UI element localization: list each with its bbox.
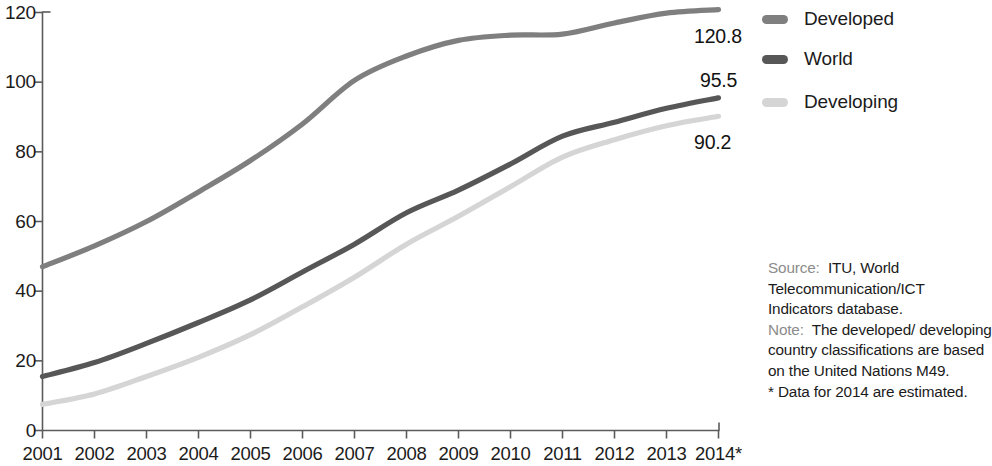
footnote-line: * Data for 2014 are estimated. bbox=[768, 382, 992, 403]
legend-label: Developed bbox=[804, 9, 894, 29]
legend-item-developed[interactable]: Developed bbox=[762, 8, 894, 30]
legend-swatch-icon bbox=[762, 15, 788, 24]
x-axis-tick-label: 2013 bbox=[647, 444, 687, 463]
value-label-developed: 120.8 bbox=[694, 26, 742, 46]
chart-figure: 020406080100120 200120022003200420052006… bbox=[0, 0, 992, 466]
source-and-note-block: Source: ITU, World Telecommunication/ICT… bbox=[768, 258, 992, 402]
x-axis-tick-label: 2008 bbox=[387, 444, 427, 463]
chart-plot-area: 020406080100120 200120022003200420052006… bbox=[0, 0, 760, 466]
source-line: Source: ITU, World Telecommunication/ICT… bbox=[768, 258, 992, 320]
y-axis-tick-label: 100 bbox=[2, 72, 36, 91]
x-axis-tick-label: 2004 bbox=[179, 444, 219, 463]
x-axis-tick-label: 2006 bbox=[283, 444, 323, 463]
chart-series bbox=[43, 10, 719, 405]
x-axis-tick-label: 2012 bbox=[595, 444, 635, 463]
chart-legend: DevelopedWorldDeveloping bbox=[762, 0, 992, 120]
source-text bbox=[820, 259, 828, 276]
value-label-developing: 90.2 bbox=[694, 132, 731, 152]
x-axis-tick-label: 2005 bbox=[231, 444, 271, 463]
legend-label: World bbox=[804, 49, 853, 69]
legend-swatch-icon bbox=[762, 55, 788, 64]
x-axis-labels: 2001200220032004200520062007200820092010… bbox=[0, 438, 760, 466]
x-axis-tick-label: 2007 bbox=[335, 444, 375, 463]
y-axis-tick-label: 40 bbox=[2, 281, 36, 300]
series-line-developing bbox=[43, 116, 719, 404]
note-kicker: Note: bbox=[768, 321, 804, 338]
note-spacer bbox=[804, 321, 812, 338]
legend-swatch-icon bbox=[762, 98, 788, 107]
line-chart-svg bbox=[0, 0, 760, 466]
y-axis-tick-label: 0 bbox=[2, 421, 36, 440]
legend-item-world[interactable]: World bbox=[762, 48, 853, 70]
y-axis-tick-label: 20 bbox=[2, 351, 36, 370]
x-axis-tick-label: 2010 bbox=[491, 444, 531, 463]
x-axis-tick-label: 2009 bbox=[439, 444, 479, 463]
x-axis-tick-label: 2011 bbox=[543, 444, 582, 463]
x-axis-tick-label: 2002 bbox=[75, 444, 115, 463]
x-axis-tick-label: 2014* bbox=[695, 444, 742, 463]
y-axis-labels: 020406080100120 bbox=[0, 0, 36, 466]
y-axis-tick-label: 60 bbox=[2, 212, 36, 231]
legend-item-developing[interactable]: Developing bbox=[762, 91, 898, 113]
value-label-world: 95.5 bbox=[700, 70, 737, 90]
x-axis-tick-label: 2003 bbox=[127, 444, 167, 463]
legend-label: Developing bbox=[804, 92, 898, 112]
y-axis-tick-label: 120 bbox=[2, 3, 36, 22]
note-line: Note: The developed/ developing country … bbox=[768, 320, 992, 382]
source-kicker: Source: bbox=[768, 259, 820, 276]
y-axis-tick-label: 80 bbox=[2, 142, 36, 161]
x-axis-tick-label: 2001 bbox=[23, 444, 63, 463]
